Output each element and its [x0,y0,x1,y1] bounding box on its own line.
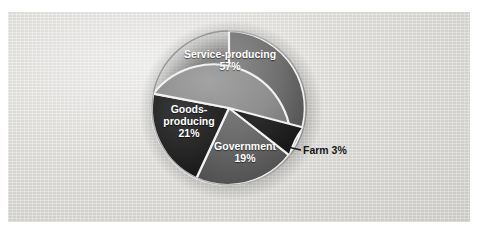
pie-chart [0,0,481,244]
chart-figure: Service-producing 57% Goods- producing 2… [0,0,481,244]
